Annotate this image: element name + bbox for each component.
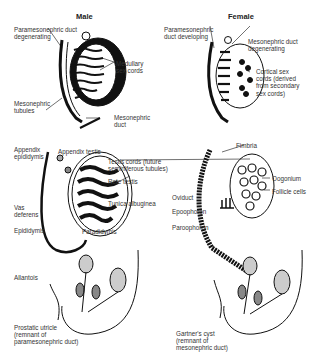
- label-oogonium: Oogonium: [272, 175, 301, 182]
- diagram-artwork: [0, 0, 314, 358]
- label-gartners-cyst: Gartner's cyst (remnant of mesonephric d…: [176, 330, 228, 352]
- label-tunica-albuginea: Tunica albuginea: [108, 200, 156, 207]
- label-fimbria: Fimbria: [236, 142, 257, 149]
- label-oviduct: Oviduct: [172, 194, 193, 201]
- label-mesonephric-duct: Mesonephric duct: [114, 114, 150, 128]
- female-urogenital-sinus: [214, 250, 302, 334]
- label-prostatic-utricle: Prostatic utricle (remnant of paramesone…: [14, 324, 78, 346]
- label-paramesonephric-developing: Paramesonephric duct developing: [164, 26, 213, 40]
- label-appendix-epididymis: Appendix epididymis: [14, 146, 44, 160]
- male-urogenital-sinus: [50, 250, 138, 334]
- label-appendix-testis: Appendix testis: [58, 148, 101, 155]
- label-cortical-sex-cords: Cortical sex cords (derived from seconda…: [256, 68, 299, 97]
- female-title: Female: [228, 12, 254, 21]
- label-paramesonephric-degenerating: Paramesonephric duct degenerating: [14, 26, 77, 40]
- label-testis-cords: Testis cords (future seminiferous tubule…: [108, 158, 168, 172]
- label-epididymis: Epididymis: [14, 227, 44, 234]
- label-rete-testis: Rete testis: [108, 178, 138, 185]
- label-follicle-cells: Follicle cells: [272, 188, 306, 195]
- label-epoophoron: Epoophoron: [172, 208, 206, 215]
- label-paroophoron: Paroophoron: [172, 224, 208, 231]
- label-vas-deferens: Vas deferens: [14, 204, 39, 218]
- label-mesonephric-degenerating: Mesonephric duct degenerating: [248, 38, 298, 52]
- label-mesonephric-tubules: Mesonephric tubules: [14, 100, 50, 114]
- label-allantois: Allantois: [14, 274, 38, 281]
- label-medullary-sex-cords: Medullary sex cords: [116, 60, 143, 74]
- female-ovary: [199, 150, 274, 272]
- label-paradidymis: Paradidymis: [82, 228, 117, 235]
- male-title: Male: [76, 12, 93, 21]
